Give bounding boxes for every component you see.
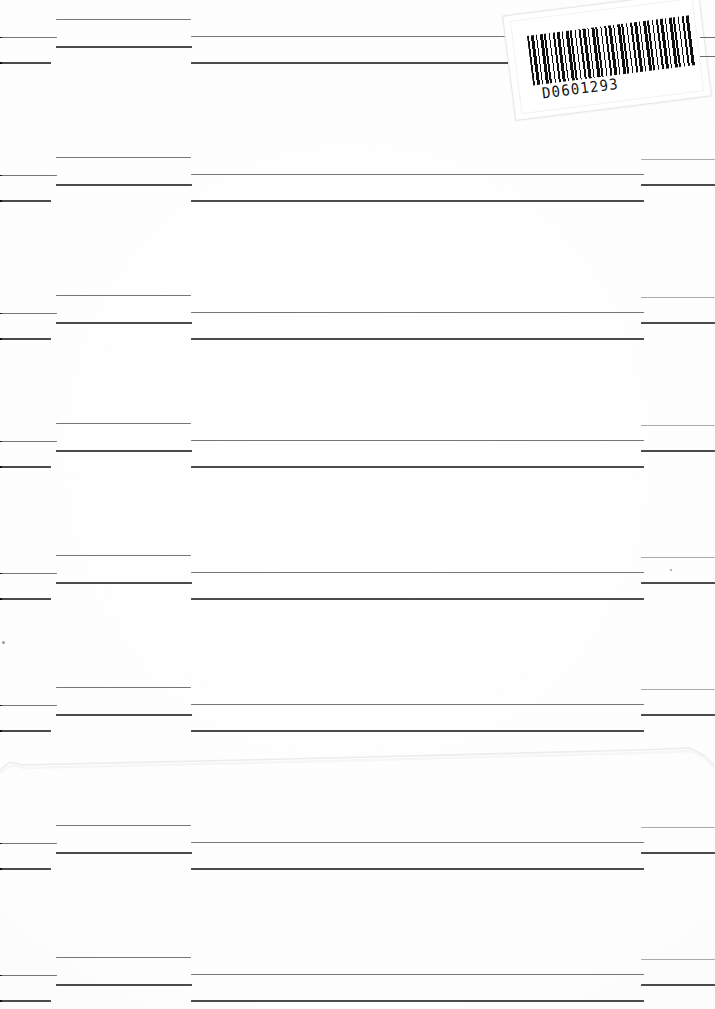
redaction-rule-right-col-lower <box>641 984 715 986</box>
redaction-rule-right-col-upper <box>641 959 715 960</box>
redaction-rule-midleft-upper <box>56 19 191 20</box>
redaction-rule-wide-lower <box>191 868 644 870</box>
redaction-rule-wide-upper <box>191 974 644 975</box>
redaction-rule-midleft-lower <box>56 852 192 854</box>
redaction-rule-right-col-lower <box>641 714 715 716</box>
barcode-sticker-inner: D0601293 <box>510 0 704 114</box>
redaction-rule-wide-upper <box>191 174 644 175</box>
band-5 <box>0 536 715 626</box>
redaction-rule-midleft-upper <box>56 555 191 556</box>
redaction-rule-left-stub-lower <box>0 338 51 340</box>
band-2 <box>0 138 715 228</box>
redaction-rule-midleft-lower <box>56 714 192 716</box>
redaction-rule-wide-lower <box>191 598 644 600</box>
redaction-rule-left-stub-lower <box>0 466 51 468</box>
redaction-rule-right-col-lower <box>641 322 715 324</box>
redaction-rule-left-stub-upper <box>0 573 57 574</box>
right-edge-stub-upper <box>700 37 715 38</box>
redaction-rule-right-col-upper <box>641 425 715 426</box>
redaction-rule-midleft-upper <box>56 687 191 688</box>
speck-left-margin <box>2 641 5 644</box>
redaction-rule-wide-lower <box>191 1000 644 1002</box>
redaction-rule-right-col-upper <box>641 557 715 558</box>
redaction-rule-midleft-lower <box>56 322 192 324</box>
redaction-rule-left-stub-upper <box>0 975 57 976</box>
redaction-rule-left-stub-upper <box>0 175 57 176</box>
redaction-rule-midleft-lower <box>56 46 192 48</box>
redaction-rule-wide-lower <box>191 62 510 64</box>
redaction-rule-left-stub-upper <box>0 705 57 706</box>
redaction-rule-right-col-lower <box>641 852 715 854</box>
redaction-rule-wide-lower <box>191 466 644 468</box>
redaction-rule-right-col-lower <box>641 450 715 452</box>
band-7 <box>0 806 715 896</box>
redaction-rule-midleft-upper <box>56 825 191 826</box>
redaction-rule-right-col-upper <box>641 159 715 160</box>
archive-barcode-sticker[interactable]: D0601293 <box>502 0 712 121</box>
redaction-rule-right-col-lower <box>641 582 715 584</box>
redaction-rule-wide-upper <box>191 36 510 37</box>
redaction-rule-left-stub-upper <box>0 313 57 314</box>
redaction-rule-midleft-lower <box>56 582 192 584</box>
redaction-rule-wide-upper <box>191 842 644 843</box>
scanned-document-page: D0601293 <box>0 0 715 1009</box>
redaction-rule-midleft-lower <box>56 984 192 986</box>
redaction-rule-left-stub-lower <box>0 868 51 870</box>
redaction-rule-left-stub-upper <box>0 843 57 844</box>
redaction-rule-wide-upper <box>191 312 644 313</box>
redaction-rule-midleft-lower <box>56 450 192 452</box>
redaction-rule-wide-lower <box>191 338 644 340</box>
redaction-rule-left-stub-lower <box>0 598 51 600</box>
redaction-rule-wide-upper <box>191 704 644 705</box>
band-8 <box>0 938 715 1009</box>
redaction-rule-right-col-upper <box>641 297 715 298</box>
band-3 <box>0 276 715 366</box>
redaction-rule-right-col-lower <box>641 184 715 186</box>
redaction-rule-left-stub-lower <box>0 200 51 202</box>
redaction-rule-left-stub-lower <box>0 730 51 732</box>
redaction-rule-midleft-upper <box>56 957 191 958</box>
redaction-rule-wide-lower <box>191 200 644 202</box>
speck-right-col <box>670 569 672 571</box>
band-6 <box>0 668 715 758</box>
right-edge-stub-lower <box>700 56 715 57</box>
redaction-rule-midleft-upper <box>56 295 191 296</box>
redaction-rule-wide-upper <box>191 440 644 441</box>
redaction-rule-wide-lower <box>191 730 644 732</box>
redaction-rule-wide-upper <box>191 572 644 573</box>
redaction-rule-left-stub-lower <box>0 62 51 64</box>
redaction-rule-right-col-upper <box>641 689 715 690</box>
redaction-rule-midleft-upper <box>56 423 191 424</box>
redaction-rule-right-col-upper <box>641 827 715 828</box>
redaction-rule-midleft-upper <box>56 157 191 158</box>
redaction-rule-midleft-lower <box>56 184 192 186</box>
redaction-rule-left-stub-upper <box>0 441 57 442</box>
band-4 <box>0 404 715 494</box>
redaction-rule-left-stub-lower <box>0 1000 51 1002</box>
redaction-rule-left-stub-upper <box>0 37 57 38</box>
